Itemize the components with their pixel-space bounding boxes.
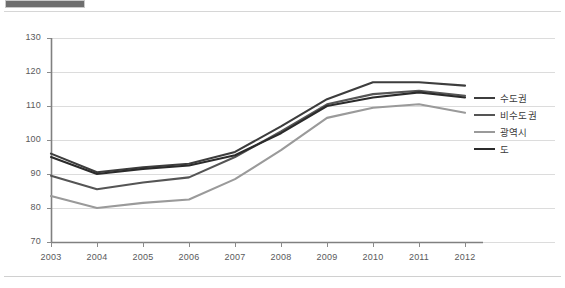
series-line: [51, 82, 465, 172]
y-tick-label: 80: [15, 202, 41, 212]
chart-legend: 수도권비수도권광역시도: [474, 89, 560, 157]
legend-item[interactable]: 광역시: [474, 123, 560, 140]
x-tick-label: 2003: [31, 252, 71, 262]
legend-item[interactable]: 도: [474, 140, 560, 157]
legend-color-swatch: [474, 148, 495, 150]
y-tick-label: 70: [15, 236, 41, 246]
x-tick-label: 2012: [445, 252, 485, 262]
y-tick-label: 110: [15, 100, 41, 110]
legend-item[interactable]: 수도권: [474, 89, 560, 106]
series-line: [51, 104, 465, 208]
x-tick-label: 2004: [77, 252, 117, 262]
legend-label: 비수도권: [500, 108, 537, 122]
x-tick-label: 2005: [123, 252, 163, 262]
legend-label: 수도권: [500, 91, 528, 105]
top-divider: [4, 11, 561, 12]
y-tick-label: 90: [15, 168, 41, 178]
x-tick-label: 2009: [307, 252, 347, 262]
legend-color-swatch: [474, 114, 495, 116]
x-tick-label: 2006: [169, 252, 209, 262]
chart-page: 708090100110120130 200320042005200620072…: [0, 0, 565, 288]
redaction-bar: [5, 0, 85, 8]
bottom-divider: [4, 276, 561, 277]
y-tick-label: 100: [15, 134, 41, 144]
legend-color-swatch: [474, 97, 495, 99]
x-tick-label: 2007: [215, 252, 255, 262]
x-tick-label: 2011: [399, 252, 439, 262]
x-tick-label: 2008: [261, 252, 301, 262]
y-tick-label: 120: [15, 66, 41, 76]
legend-label: 도: [500, 142, 509, 156]
x-tick-label: 2010: [353, 252, 393, 262]
legend-label: 광역시: [500, 125, 528, 139]
y-tick-label: 130: [15, 32, 41, 42]
legend-color-swatch: [474, 131, 495, 133]
legend-item[interactable]: 비수도권: [474, 106, 560, 123]
